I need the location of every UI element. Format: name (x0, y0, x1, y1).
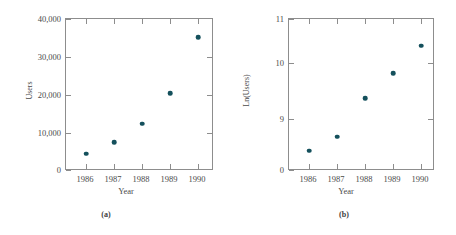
x-axis-title-b: Year (232, 186, 456, 196)
xtick-label-a: 1988 (133, 175, 150, 184)
xtick-top-b-1986 (309, 19, 310, 24)
xtick-label-a: 1987 (105, 175, 122, 184)
ytick-label-a: 10,000 (38, 129, 61, 138)
ytick-label-a: 0 (57, 166, 61, 175)
plot-frame-a (65, 18, 213, 170)
xtick-a-1986 (86, 164, 87, 169)
ytick-b-0 (289, 170, 294, 171)
data-point (168, 91, 173, 96)
ytick-label-b: 0 (280, 166, 284, 175)
panel-a: 40,000 30,000 20,000 10,000 0 1986 1987 … (0, 0, 228, 235)
ytick-a-10000 (66, 133, 71, 134)
xtick-a-1990 (198, 164, 199, 169)
data-point (335, 134, 340, 139)
plot-frame-b (288, 18, 434, 170)
ytick-label-b: 11 (276, 15, 284, 24)
xtick-label-a: 1986 (77, 175, 94, 184)
xtick-b-1988 (365, 164, 366, 169)
data-point (140, 121, 145, 126)
xtick-top-a-1988 (142, 19, 143, 24)
xtick-a-1988 (142, 164, 143, 169)
xtick-top-b-1987 (337, 19, 338, 24)
ytick-label-b: 9 (280, 115, 284, 124)
ytick-b-10 (289, 63, 294, 64)
xtick-top-b-1988 (365, 19, 366, 24)
ytick-right-a-30000 (207, 57, 212, 58)
ytick-b-9 (289, 119, 294, 120)
data-point (363, 96, 368, 101)
ytick-a-0 (66, 170, 71, 171)
xtick-label-b: 1988 (356, 175, 373, 184)
ytick-right-a-20000 (207, 95, 212, 96)
panel-b: 11 10 9 0 1986 1987 1988 1989 1990 Ln(Us… (228, 0, 456, 235)
figure-scatter-pair: 40,000 30,000 20,000 10,000 0 1986 1987 … (0, 0, 456, 235)
data-point (196, 35, 201, 40)
ytick-a-40000 (66, 19, 71, 20)
xtick-top-b-1989 (393, 19, 394, 24)
x-axis-title-a: Year (12, 186, 240, 196)
ytick-a-20000 (66, 95, 71, 96)
ytick-a-30000 (66, 57, 71, 58)
data-point (419, 43, 424, 48)
xtick-label-b: 1989 (384, 175, 401, 184)
xtick-b-1989 (393, 164, 394, 169)
panel-caption-b: (b) (230, 210, 456, 219)
xtick-label-b: 1990 (412, 175, 429, 184)
y-axis-title-b: Ln(Users) (242, 61, 251, 121)
ytick-right-a-10000 (207, 133, 212, 134)
xtick-label-a: 1989 (161, 175, 178, 184)
ytick-right-b-9 (428, 119, 433, 120)
xtick-a-1989 (170, 164, 171, 169)
xtick-top-a-1987 (114, 19, 115, 24)
ytick-label-a: 20,000 (38, 91, 61, 100)
xtick-top-a-1990 (198, 19, 199, 24)
ytick-label-a: 30,000 (38, 53, 61, 62)
data-point (391, 71, 396, 76)
xtick-top-a-1986 (86, 19, 87, 24)
xtick-label-a: 1990 (189, 175, 206, 184)
ytick-label-b: 10 (276, 59, 285, 68)
xtick-top-a-1989 (170, 19, 171, 24)
panel-caption-a: (a) (0, 210, 220, 219)
ytick-b-11 (289, 19, 294, 20)
data-point (112, 140, 117, 145)
y-axis-title-a: Users (25, 61, 34, 121)
xtick-top-b-1990 (421, 19, 422, 24)
ytick-label-a: 40,000 (38, 15, 61, 24)
xtick-b-1987 (337, 164, 338, 169)
xtick-b-1990 (421, 164, 422, 169)
xtick-a-1987 (114, 164, 115, 169)
data-point (84, 151, 89, 156)
data-point (307, 148, 312, 153)
xtick-label-b: 1987 (328, 175, 345, 184)
xtick-b-1986 (309, 164, 310, 169)
ytick-right-b-10 (428, 63, 433, 64)
xtick-label-b: 1986 (300, 175, 317, 184)
